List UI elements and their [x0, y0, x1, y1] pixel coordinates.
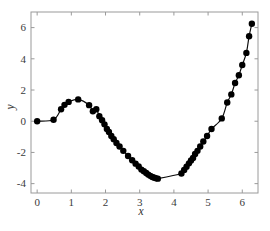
data-point-marker [75, 96, 81, 102]
data-point-marker [249, 21, 255, 27]
x-tick-label: 0 [34, 196, 40, 208]
data-point-marker [204, 133, 210, 139]
data-point-marker [208, 126, 214, 132]
x-tick-label: 2 [103, 196, 109, 208]
data-point-marker [236, 72, 242, 78]
data-point-marker [65, 99, 71, 105]
data-point-marker [93, 106, 99, 112]
y-tick-label: 4 [21, 53, 27, 65]
data-point-marker [219, 115, 225, 121]
x-axis-label: x [137, 205, 144, 217]
y-tick-label: 2 [21, 84, 27, 96]
data-point-marker [246, 33, 252, 39]
data-point-marker [50, 117, 56, 123]
y-tick-label: -4 [17, 177, 27, 189]
figure-background [0, 0, 270, 231]
data-point-marker [243, 50, 249, 56]
x-tick-label: 6 [240, 196, 246, 208]
x-tick-label: 4 [171, 196, 177, 208]
data-point-marker [232, 80, 238, 86]
y-axis-label: y [4, 104, 17, 111]
figure-container: 0123456 -4-20246 x y [0, 0, 270, 231]
data-point-marker [224, 99, 230, 105]
data-point-marker [239, 62, 245, 68]
data-point-marker [120, 148, 126, 154]
x-tick-label: 1 [69, 196, 75, 208]
y-tick-label: 6 [21, 21, 27, 33]
data-point-marker [155, 175, 161, 181]
data-point-marker [86, 102, 92, 108]
data-point-marker [34, 118, 40, 124]
data-point-marker [200, 138, 206, 144]
y-tick-label: 0 [21, 115, 27, 127]
y-tick-label: -2 [17, 146, 26, 158]
data-point-marker [228, 91, 234, 97]
x-tick-label: 5 [205, 196, 211, 208]
line-chart: 0123456 -4-20246 x y [0, 0, 270, 231]
